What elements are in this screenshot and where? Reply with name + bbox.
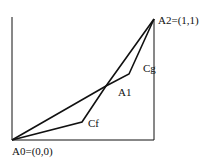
label-a0: A0=(0,0) — [12, 145, 53, 158]
curve-f — [12, 19, 154, 140]
label-a1: A1 — [118, 86, 131, 98]
lorenz-curve-diagram: A0=(0,0) A2=(1,1) A1 Cf Cg — [0, 0, 205, 158]
label-a2: A2=(1,1) — [158, 14, 199, 27]
label-cf: Cf — [88, 117, 99, 129]
label-cg: Cg — [143, 62, 156, 74]
